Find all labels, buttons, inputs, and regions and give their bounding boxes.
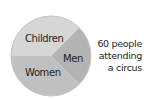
chart-caption: 60 people attending a circus: [97, 38, 142, 74]
caption-line-3: a circus: [97, 62, 142, 74]
caption-line-2: attending: [97, 50, 142, 62]
slice-label-men: Men: [63, 53, 83, 64]
slice-label-women: Women: [25, 67, 61, 78]
caption-line-1: 60 people: [97, 38, 142, 50]
slice-label-children: Children: [25, 33, 63, 44]
